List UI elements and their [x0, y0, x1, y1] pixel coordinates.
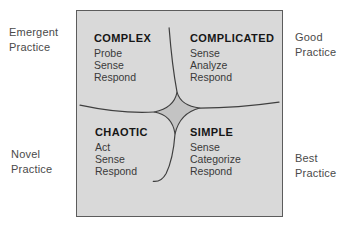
boundary-right-arm — [200, 102, 279, 108]
label-line: Practice — [11, 162, 52, 177]
label-novel-practice: Novel Practice — [11, 147, 52, 177]
cynefin-diagram: Emergent Practice Good Practice Novel Pr… — [0, 0, 345, 235]
quadrant-simple: SIMPLE Sense Categorize Respond — [190, 127, 241, 177]
quadrant-step: Sense — [94, 59, 151, 71]
boundary-top-arm — [169, 28, 177, 92]
quadrant-title: SIMPLE — [190, 127, 241, 138]
label-line: Emergent — [9, 25, 58, 40]
quadrant-title: CHAOTIC — [95, 127, 148, 138]
quadrant-step: Act — [95, 141, 148, 153]
quadrant-chaotic: CHAOTIC Act Sense Respond — [95, 127, 148, 177]
label-line: Practice — [295, 45, 336, 60]
quadrant-step: Sense — [190, 47, 274, 59]
quadrant-step: Respond — [190, 165, 241, 177]
quadrant-step: Respond — [94, 71, 151, 83]
label-line: Novel — [11, 147, 52, 162]
label-good-practice: Good Practice — [295, 30, 336, 60]
label-best-practice: Best Practice — [295, 151, 336, 181]
quadrant-step: Sense — [95, 153, 148, 165]
label-line: Practice — [295, 166, 336, 181]
quadrant-title: COMPLICATED — [190, 33, 274, 44]
boundary-left-arm — [80, 105, 154, 112]
label-line: Best — [295, 151, 336, 166]
quadrant-step: Sense — [190, 141, 241, 153]
quadrant-step: Respond — [95, 165, 148, 177]
label-line: Practice — [9, 40, 58, 55]
quadrant-complicated: COMPLICATED Sense Analyze Respond — [190, 33, 274, 83]
label-line: Good — [295, 30, 336, 45]
boundary-bottom-arm — [153, 134, 175, 182]
quadrant-complex: COMPLEX Probe Sense Respond — [94, 33, 151, 83]
quadrant-step: Categorize — [190, 153, 241, 165]
quadrant-step: Respond — [190, 71, 274, 83]
quadrant-title: COMPLEX — [94, 33, 151, 44]
label-emergent-practice: Emergent Practice — [9, 25, 58, 55]
quadrant-step: Probe — [94, 47, 151, 59]
framework-box: COMPLEX Probe Sense Respond COMPLICATED … — [76, 10, 283, 217]
quadrant-step: Analyze — [190, 59, 274, 71]
